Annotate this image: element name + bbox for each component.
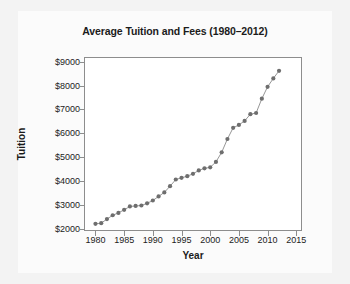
x-tick-label: 2015	[286, 235, 306, 245]
x-tick-mark	[296, 231, 297, 236]
data-point	[145, 201, 149, 205]
x-tick-label: 1985	[114, 235, 134, 245]
x-axis-tick-labels: 19801985199019952000200520102015	[0, 235, 350, 249]
x-tick-mark	[210, 231, 211, 236]
y-tick-mark	[79, 229, 84, 230]
x-tick-label: 2005	[229, 235, 249, 245]
data-point	[162, 190, 166, 194]
chart-figure: Average Tuition and Fees (1980–2012) Tui…	[0, 0, 350, 284]
y-tick-label: $4000	[55, 176, 80, 186]
data-point	[151, 198, 155, 202]
data-point	[265, 85, 269, 89]
series-polyline	[95, 71, 279, 224]
x-tick-label: 1995	[172, 235, 192, 245]
data-point	[237, 123, 241, 127]
y-tick-mark	[79, 62, 84, 63]
data-point	[254, 111, 258, 115]
data-point	[93, 222, 97, 226]
series-markers	[93, 69, 281, 226]
y-tick-label: $3000	[55, 200, 80, 210]
x-tick-mark	[268, 231, 269, 236]
y-tick-label: $9000	[55, 57, 80, 67]
data-point	[122, 208, 126, 212]
x-tick-mark	[239, 231, 240, 236]
x-tick-mark	[124, 231, 125, 236]
y-tick-label: $6000	[55, 128, 80, 138]
data-point	[197, 168, 201, 172]
data-point	[111, 213, 115, 217]
data-point	[168, 184, 172, 188]
x-tick-label: 1980	[85, 235, 105, 245]
data-series-line	[84, 57, 302, 231]
y-tick-label: $8000	[55, 81, 80, 91]
data-point	[248, 112, 252, 116]
y-axis-title: Tuition	[16, 128, 27, 161]
data-point	[179, 176, 183, 180]
data-point	[191, 172, 195, 176]
data-point	[225, 137, 229, 141]
y-tick-mark	[79, 109, 84, 110]
y-tick-label: $7000	[55, 104, 80, 114]
data-point	[156, 194, 160, 198]
plot-area	[84, 57, 302, 231]
data-point	[134, 204, 138, 208]
data-point	[99, 221, 103, 225]
data-point	[185, 174, 189, 178]
data-point	[260, 97, 264, 101]
x-tick-mark	[95, 231, 96, 236]
data-point	[116, 211, 120, 215]
data-point	[128, 204, 132, 208]
data-point	[105, 217, 109, 221]
x-tick-mark	[182, 231, 183, 236]
y-tick-mark	[79, 133, 84, 134]
data-point	[243, 119, 247, 123]
x-tick-label: 1990	[143, 235, 163, 245]
y-tick-mark	[79, 157, 84, 158]
x-tick-label: 2000	[200, 235, 220, 245]
data-point	[202, 166, 206, 170]
y-tick-mark	[79, 205, 84, 206]
y-tick-label: $5000	[55, 152, 80, 162]
data-point	[271, 76, 275, 80]
y-tick-mark	[79, 181, 84, 182]
data-point	[220, 150, 224, 154]
x-tick-label: 2010	[258, 235, 278, 245]
y-tick-label: $2000	[55, 224, 80, 234]
data-point	[174, 177, 178, 181]
y-tick-mark	[79, 86, 84, 87]
x-axis-title: Year	[84, 250, 302, 261]
data-point	[214, 160, 218, 164]
data-point	[139, 203, 143, 207]
data-point	[208, 165, 212, 169]
data-point	[277, 69, 281, 73]
x-tick-mark	[153, 231, 154, 236]
data-point	[231, 126, 235, 130]
